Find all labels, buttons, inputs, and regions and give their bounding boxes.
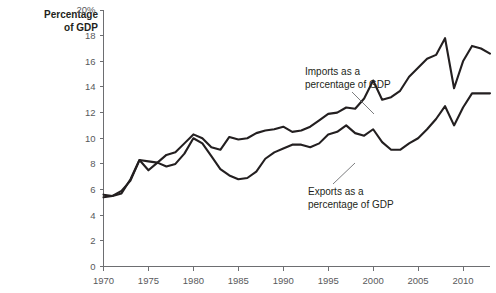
x-tick-label: 1990 <box>273 275 294 286</box>
y-tick-label: 16 <box>85 56 96 67</box>
imports-annotation-line1: Imports as a <box>305 66 360 77</box>
imports-leader-line <box>352 92 374 114</box>
y-tick-label: 4 <box>90 210 95 221</box>
x-tick-label: 1970 <box>93 275 114 286</box>
y-tick-label: 2 <box>90 235 95 246</box>
y-tick-label: 12 <box>85 107 96 118</box>
y-tick-label: 18 <box>85 30 96 41</box>
x-tick-label: 1980 <box>183 275 204 286</box>
exports-line <box>104 93 491 196</box>
x-tick-label: 1995 <box>318 275 339 286</box>
exports-annotation-line1: Exports as a <box>308 186 364 197</box>
y-tick-label: 10 <box>85 133 96 144</box>
gdp-trade-line-chart: Percentage of GDP 02468101214161820% 197… <box>0 0 496 293</box>
y-axis-ticks: 02468101214161820% <box>76 4 103 272</box>
imports-annotation-line2: percentage of GDP <box>305 79 391 90</box>
x-tick-label: 2000 <box>363 275 384 286</box>
y-tick-label: 8 <box>90 158 95 169</box>
exports-annotation: Exports as a percentage of GDP <box>308 163 394 210</box>
y-tick-label: 14 <box>85 81 96 92</box>
x-tick-label: 2010 <box>452 275 473 286</box>
x-tick-label: 2005 <box>408 275 429 286</box>
axis-frame <box>104 10 491 267</box>
chart-container: Percentage of GDP 02468101214161820% 197… <box>0 0 496 293</box>
x-tick-label: 1975 <box>138 275 159 286</box>
exports-annotation-line2: percentage of GDP <box>308 199 394 210</box>
y-tick-label: 6 <box>90 184 95 195</box>
y-tick-label: 20% <box>76 4 96 15</box>
y-tick-label: 0 <box>90 261 95 272</box>
exports-leader-line <box>333 163 355 184</box>
x-tick-label: 1985 <box>228 275 249 286</box>
x-axis-ticks: 197019751980198519901995200020052010 <box>93 267 474 286</box>
imports-line <box>104 38 491 197</box>
